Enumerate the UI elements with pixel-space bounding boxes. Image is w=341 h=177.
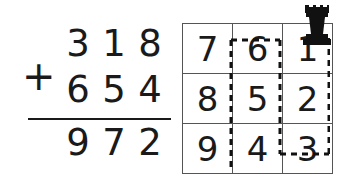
addend-bottom-digit-tens: 5 xyxy=(96,68,132,112)
addend-top-digit-tens: 1 xyxy=(96,22,132,66)
grid-row: 8 5 2 xyxy=(183,74,333,124)
grid-cell-r1c2[interactable]: 6 xyxy=(233,24,283,74)
grid-row: 9 4 3 xyxy=(183,124,333,174)
grid-cell-r3c2[interactable]: 4 xyxy=(233,124,283,174)
sum-digit-ones: 2 xyxy=(132,121,168,165)
addend-bottom-digit-hundreds: 6 xyxy=(60,68,96,112)
addition-problem: 3 1 8 + 6 5 4 9 7 2 xyxy=(0,0,178,177)
addend-top-digit-ones: 8 xyxy=(132,22,168,66)
grid-cell-r2c3[interactable]: 2 xyxy=(283,74,333,124)
grid-cell-r3c1[interactable]: 9 xyxy=(183,124,233,174)
grid-cell-r2c2[interactable]: 5 xyxy=(233,74,283,124)
sum-digit-hundreds: 9 xyxy=(60,121,96,165)
addition-horizontal-rule xyxy=(28,118,171,120)
figure-container: 3 1 8 + 6 5 4 9 7 2 7 6 1 xyxy=(0,0,341,177)
addend-top-digit-hundreds: 3 xyxy=(60,22,96,66)
grid-cell-r3c3[interactable]: 3 xyxy=(283,124,333,174)
addend-bottom-row: 6 5 4 xyxy=(40,68,168,112)
addend-bottom-digit-ones: 4 xyxy=(132,68,168,112)
sum-digit-tens: 7 xyxy=(96,121,132,165)
chess-rook-icon xyxy=(300,2,334,46)
grid-cell-r1c1[interactable]: 7 xyxy=(183,24,233,74)
grid-cell-r2c1[interactable]: 8 xyxy=(183,74,233,124)
sum-row: 9 7 2 xyxy=(40,121,168,165)
addend-top-row: 3 1 8 xyxy=(40,22,168,66)
